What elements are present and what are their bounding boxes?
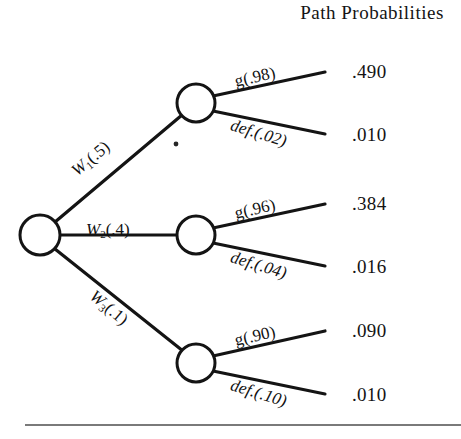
node-root bbox=[20, 215, 60, 255]
node-middle bbox=[177, 216, 215, 254]
tree-canvas bbox=[0, 0, 461, 439]
stage2-edges bbox=[213, 72, 325, 394]
path-probability-value-4: .016 bbox=[352, 256, 386, 278]
stray-dot-artifact bbox=[174, 142, 179, 147]
path-probability-value-6: .010 bbox=[352, 384, 386, 406]
edge-root-to-node3 bbox=[55, 249, 183, 351]
node-bottom bbox=[177, 344, 215, 382]
path-probability-value-1: .490 bbox=[352, 61, 386, 83]
path-probability-value-3: .384 bbox=[352, 193, 386, 215]
path-probability-value-2: .010 bbox=[352, 124, 386, 146]
probability-tree-figure: Path Probabilities W1(.5) W2(.4) bbox=[0, 0, 461, 439]
node-top bbox=[177, 84, 215, 122]
edge-label-w2: W2(.4) bbox=[86, 220, 130, 240]
path-probability-value-5: .090 bbox=[352, 320, 386, 342]
